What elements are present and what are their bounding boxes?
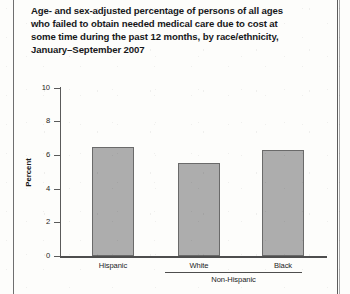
y-tick-label-10: 10 (26, 83, 50, 92)
x-axis-label-black: Black (238, 261, 328, 270)
y-tick-label-6: 6 (26, 150, 50, 159)
y-tick-label-wrap-0: 0 (24, 251, 50, 261)
y-tick-mark-4 (54, 189, 60, 190)
y-tick-mark-2 (54, 222, 60, 223)
y-tick-label-wrap-8: 8 (24, 116, 50, 126)
group-bracket-rule (165, 272, 302, 273)
bar-hispanic (92, 147, 134, 257)
bar-white (178, 163, 220, 256)
y-tick-label-0: 0 (26, 251, 50, 260)
y-tick-label-4: 4 (26, 184, 50, 193)
y-tick-label-2: 2 (26, 217, 50, 226)
x-axis-label-white: White (154, 261, 244, 270)
bar-black (262, 150, 304, 256)
x-axis-label-hispanic: Hispanic (68, 261, 158, 270)
group-bracket-label: Non-Hispanic (165, 275, 302, 284)
y-tick-label-wrap-10: 10 (24, 83, 50, 93)
y-tick-mark-6 (54, 155, 60, 156)
y-axis-line (60, 87, 61, 257)
y-tick-label-8: 8 (26, 116, 50, 125)
y-tick-mark-10 (54, 88, 60, 89)
y-tick-label-wrap-2: 2 (24, 217, 50, 227)
y-tick-mark-0 (54, 256, 60, 257)
y-tick-mark-8 (54, 121, 60, 122)
scanned-figure-page: Age- and sex-adjusted percentage of pers… (0, 0, 350, 294)
y-tick-label-wrap-6: 6 (24, 150, 50, 160)
y-tick-label-wrap-4: 4 (24, 184, 50, 194)
bar-chart: Percent 0246810 HispanicWhiteBlack Non-H… (0, 0, 350, 294)
x-axis-line (60, 256, 327, 258)
